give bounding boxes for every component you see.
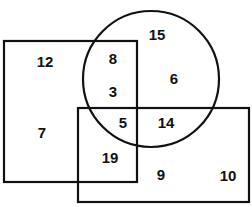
region-label-circle-only-right: 6 xyxy=(170,70,178,87)
region-label-triple-overlap: 5 xyxy=(119,114,127,131)
region-label-rect-bottom-only: 10 xyxy=(220,167,237,184)
region-label-rect-left-rect-bottom: 19 xyxy=(102,149,119,166)
region-label-circle-rect-bottom: 14 xyxy=(158,114,175,131)
region-label-rect-left-only-bottom: 7 xyxy=(38,124,46,141)
region-label-rect-left-only-top: 12 xyxy=(37,53,54,70)
region-label-rect-bottom-inner: 9 xyxy=(157,166,165,183)
region-label-circle-rect-left-top: 8 xyxy=(109,50,117,67)
region-label-circle-only-top: 15 xyxy=(149,26,166,43)
venn-diagram-canvas: 12 7 8 3 15 6 5 14 19 9 10 xyxy=(0,0,252,207)
region-label-circle-rect-left-mid: 3 xyxy=(109,83,117,100)
venn-diagram-container: 12 7 8 3 15 6 5 14 19 9 10 xyxy=(0,0,252,207)
